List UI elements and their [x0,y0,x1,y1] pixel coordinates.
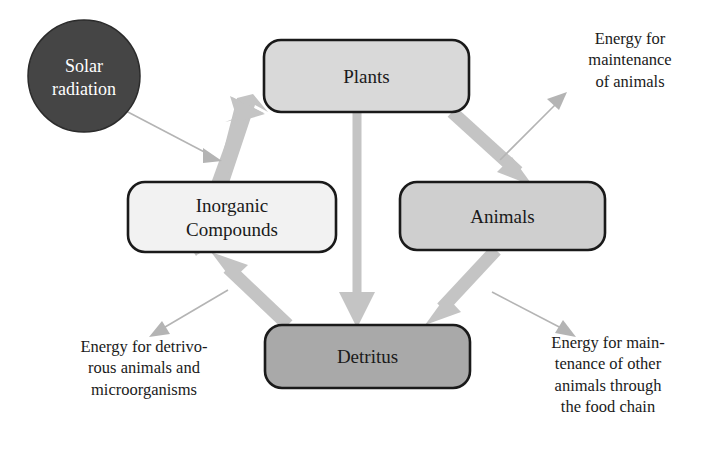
thin-arrow-energy-food-chain [492,292,576,337]
thin-arrow-solar-to-plants [126,111,222,163]
node-label-solar-radiation-line2: radiation [52,79,116,99]
thick-arrow-animals-to-detritus [425,250,496,325]
node-label-solar-radiation-line1: Solar [65,56,103,76]
node-detritus[interactable]: Detritus [265,325,470,388]
caption-energy-food-chain: Energy for main- tenance of other animal… [512,332,704,418]
thin-arrow-energy-detritivores [149,290,228,337]
diagram-canvas: Solar radiation Plants Inorganic Compoun… [0,0,715,454]
caption-energy-maintenance-animals: Energy for maintenance of animals [555,28,705,92]
thick-arrow-detritus-to-inorganic [211,252,288,325]
node-solar-radiation[interactable]: Solar radiation [28,20,140,132]
node-animals[interactable]: Animals [400,182,605,250]
node-inorganic-compounds[interactable]: Inorganic Compounds [128,182,336,252]
node-label-inorganic-compounds-line1: Inorganic [196,195,268,216]
thick-arrow-plants-to-animals [452,112,533,186]
thick-arrow-plants-to-detritus [339,112,375,328]
node-label-inorganic-compounds-line2: Compounds [186,219,278,240]
node-label-animals: Animals [470,206,534,227]
thin-arrow-energy-maintenance-animals [500,92,567,160]
node-label-detritus: Detritus [337,346,398,367]
caption-energy-detritivores: Energy for detrivo- rous animals and mic… [38,336,250,400]
node-label-plants: Plants [343,66,389,87]
node-plants[interactable]: Plants [264,40,469,112]
